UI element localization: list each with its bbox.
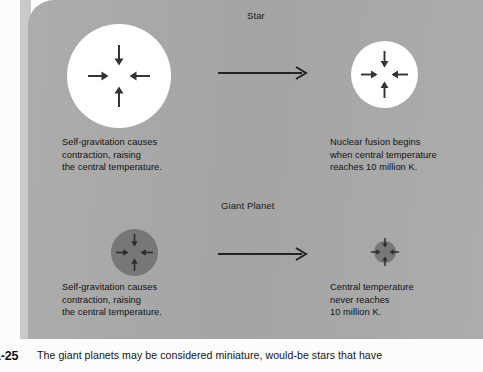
star-circle-before bbox=[67, 24, 171, 128]
figure-caption-text: The giant planets may be considered mini… bbox=[37, 348, 483, 362]
caption-star-after: Nuclear fusion begins when central tempe… bbox=[330, 136, 437, 174]
section-heading-star: Star bbox=[247, 10, 265, 21]
star-circle-after bbox=[351, 41, 418, 108]
section-heading-giant-planet: Giant Planet bbox=[221, 200, 274, 211]
caption-giant-planet-after: Central temperature never reaches 10 mil… bbox=[330, 281, 414, 319]
giant-planet-circle-after bbox=[374, 241, 396, 263]
figure-footer: 1-25 The giant planets may be considered… bbox=[0, 345, 483, 372]
transition-arrow-star-icon bbox=[218, 64, 310, 82]
transition-arrow-giant-planet-icon bbox=[218, 245, 310, 263]
figure-number: 1-25 bbox=[0, 349, 18, 363]
caption-giant-planet-before: Self-gravitation causes contraction, rai… bbox=[62, 281, 162, 319]
caption-star-before: Self-gravitation causes contraction, rai… bbox=[62, 136, 162, 174]
figure-root: Star bbox=[0, 0, 483, 372]
giant-planet-circle-before bbox=[111, 229, 158, 276]
